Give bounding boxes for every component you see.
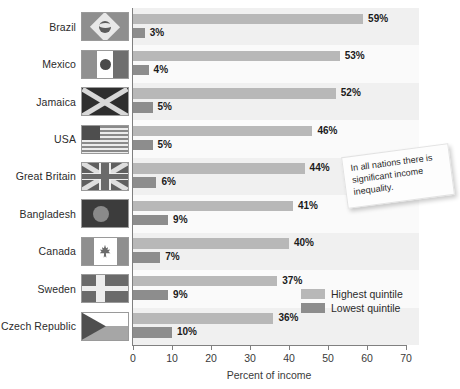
bar-highest-quintile: [133, 14, 363, 25]
x-axis-tick-label: 20: [205, 352, 217, 364]
country-label: USA: [54, 133, 81, 145]
legend-item-highest-quintile: Highest quintile: [301, 288, 421, 300]
x-axis-tick-label: 60: [361, 352, 373, 364]
x-axis-tick-label: 10: [166, 352, 178, 364]
category-axis-labels: BrazilMexicoJamaicaUSAGreat BritainBangl…: [0, 8, 133, 345]
x-axis-tick-label: 40: [283, 352, 295, 364]
legend-swatch-lowest-quintile: [301, 303, 325, 313]
mexico-flag: [81, 50, 129, 79]
legend-label-highest-quintile: Highest quintile: [331, 288, 403, 300]
great-britain-flag: [81, 162, 129, 191]
country-label: Mexico: [42, 58, 81, 70]
bar-lowest-quintile: [133, 102, 153, 113]
bar-value-highest-quintile: 59%: [368, 14, 388, 25]
bar-value-highest-quintile: 36%: [278, 313, 298, 324]
category-row: Bangladesh: [0, 195, 133, 232]
category-row: Great Britain: [0, 158, 133, 195]
bar-lowest-quintile: [133, 327, 172, 338]
bar-lowest-quintile: [133, 290, 168, 301]
country-label: Great Britain: [16, 170, 81, 182]
czech-republic-flag: [81, 312, 129, 341]
x-axis-tick-label: 0: [130, 352, 136, 364]
legend-swatch-highest-quintile: [301, 289, 325, 299]
category-row: Mexico: [0, 45, 133, 82]
country-label: Czech Republic: [1, 320, 81, 332]
bar-value-lowest-quintile: 7%: [165, 252, 179, 263]
bar-value-lowest-quintile: 9%: [173, 290, 187, 301]
bar-highest-quintile: [133, 126, 312, 137]
bar-highest-quintile: [133, 276, 277, 287]
x-axis-tick: [250, 345, 251, 350]
bar-highest-quintile: [133, 238, 289, 249]
x-axis-title: Percent of income: [227, 369, 312, 381]
bar-lowest-quintile: [133, 177, 156, 188]
x-axis-tick: [328, 345, 329, 350]
value-axis-line: [132, 8, 133, 346]
legend-item-lowest-quintile: Lowest quintile: [301, 302, 421, 314]
bar-value-highest-quintile: 53%: [345, 51, 365, 62]
category-row: Canada: [0, 233, 133, 270]
income-inequality-bar-chart: BrazilMexicoJamaicaUSAGreat BritainBangl…: [0, 0, 460, 389]
bar-lowest-quintile: [133, 28, 145, 39]
x-axis-tick: [172, 345, 173, 350]
x-axis-tick: [406, 345, 407, 350]
bangladesh-flag: [81, 199, 129, 228]
brazil-flag: [81, 12, 129, 41]
sticky-note-text: In all nations there is significant inco…: [350, 150, 446, 198]
x-axis-tick-label: 50: [322, 352, 334, 364]
bar-value-lowest-quintile: 10%: [177, 327, 197, 338]
bar-lowest-quintile: [133, 252, 160, 263]
bar-value-highest-quintile: 52%: [341, 88, 361, 99]
bar-value-highest-quintile: 44%: [310, 163, 330, 174]
bar-lowest-quintile: [133, 65, 149, 76]
bar-value-highest-quintile: 37%: [282, 276, 302, 287]
bar-value-lowest-quintile: 4%: [154, 65, 168, 76]
category-row: USA: [0, 120, 133, 157]
bar-value-lowest-quintile: 5%: [158, 140, 172, 151]
bar-highest-quintile: [133, 313, 273, 324]
bar-highest-quintile: [133, 51, 340, 62]
bar-highest-quintile: [133, 201, 293, 212]
country-label: Brazil: [49, 21, 81, 33]
category-row: Czech Republic: [0, 308, 133, 345]
category-row: Brazil: [0, 8, 133, 45]
bar-highest-quintile: [133, 163, 305, 174]
bar-value-lowest-quintile: 3%: [150, 28, 164, 39]
sweden-flag: [81, 274, 129, 303]
x-axis-tick-label: 70: [400, 352, 412, 364]
country-label: Jamaica: [36, 96, 81, 108]
x-axis-tick: [367, 345, 368, 350]
legend: Highest quintile Lowest quintile: [301, 288, 421, 316]
country-label: Bangladesh: [20, 208, 81, 220]
country-label: Canada: [39, 245, 81, 257]
bar-value-highest-quintile: 41%: [298, 201, 318, 212]
bar-value-lowest-quintile: 9%: [173, 215, 187, 226]
x-axis-tick: [211, 345, 212, 350]
x-axis-tick: [133, 345, 134, 350]
usa-flag: [81, 125, 129, 154]
bar-value-highest-quintile: 40%: [294, 238, 314, 249]
country-label: Sweden: [37, 283, 81, 295]
x-axis-tick-label: 30: [244, 352, 256, 364]
bar-highest-quintile: [133, 88, 336, 99]
bar-lowest-quintile: [133, 215, 168, 226]
category-row: Jamaica: [0, 83, 133, 120]
bar-value-highest-quintile: 46%: [317, 126, 337, 137]
x-axis-tick: [289, 345, 290, 350]
bar-lowest-quintile: [133, 140, 153, 151]
legend-label-lowest-quintile: Lowest quintile: [331, 302, 400, 314]
jamaica-flag: [81, 87, 129, 116]
category-row: Sweden: [0, 270, 133, 307]
bar-value-lowest-quintile: 5%: [158, 102, 172, 113]
x-axis-line: [133, 345, 406, 346]
bar-value-lowest-quintile: 6%: [161, 177, 175, 188]
canada-flag: [81, 237, 129, 266]
